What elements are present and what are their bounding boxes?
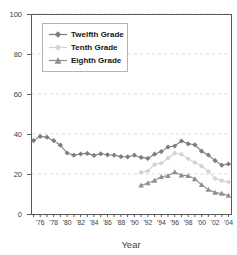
svg-text:'82: '82 [76, 219, 85, 226]
svg-text:'76: '76 [36, 219, 45, 226]
line-chart: 020406080100'76'78'80'82'84'86'88'90'92'… [0, 0, 237, 255]
svg-text:60: 60 [14, 90, 22, 99]
svg-text:0: 0 [18, 210, 22, 219]
svg-text:'04: '04 [224, 219, 233, 226]
svg-text:'90: '90 [130, 219, 139, 226]
svg-text:80: 80 [14, 50, 22, 59]
svg-text:'84: '84 [90, 219, 99, 226]
legend-label-eighth-grade: Eighth Grade [71, 56, 121, 65]
svg-text:'96: '96 [170, 219, 179, 226]
y-axis: 020406080100 [9, 10, 31, 219]
svg-text:'94: '94 [157, 219, 166, 226]
svg-text:'92: '92 [143, 219, 152, 226]
legend-item-twelfth-grade: Twelfth Grade [49, 28, 127, 41]
tenth-grade-line-marker-icon [49, 43, 67, 52]
svg-text:'86: '86 [103, 219, 112, 226]
legend-item-tenth-grade: Tenth Grade [49, 41, 127, 54]
series-twelfth-grade [31, 134, 231, 168]
svg-text:'80: '80 [63, 219, 72, 226]
legend-label-twelfth-grade: Twelfth Grade [71, 30, 124, 39]
legend-label-tenth-grade: Tenth Grade [71, 43, 118, 52]
svg-text:'88: '88 [116, 219, 125, 226]
series-eighth-grade [138, 169, 231, 198]
svg-text:40: 40 [14, 130, 22, 139]
legend-item-eighth-grade: Eighth Grade [49, 54, 127, 67]
x-axis: '76'78'80'82'84'86'88'90'92'94'96'98'00'… [34, 214, 234, 226]
svg-text:'98: '98 [184, 219, 193, 226]
legend: Twelfth Grade Tenth Grade Eighth Grade [42, 23, 128, 72]
svg-text:100: 100 [9, 10, 22, 19]
svg-text:20: 20 [14, 170, 22, 179]
svg-text:'00: '00 [197, 219, 206, 226]
svg-text:'02: '02 [211, 219, 220, 226]
x-axis-title: Year [121, 239, 140, 250]
svg-text:'78: '78 [49, 219, 58, 226]
eighth-grade-line-marker-icon [49, 56, 67, 65]
twelfth-grade-line-marker-icon [49, 30, 67, 39]
